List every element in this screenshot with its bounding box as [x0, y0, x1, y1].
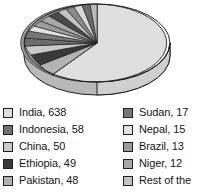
legend-swatch-icon-pakistan [3, 176, 13, 186]
legend-swatch-icon-indonesia [3, 125, 13, 135]
legend-swatch-icon-brazil [123, 142, 133, 152]
legend-label-nepal: Nepal, 15 [139, 124, 185, 135]
legend-item-rest-of-the: Rest of the [123, 172, 191, 189]
legend-item-brazil: Brazil, 13 [123, 138, 191, 155]
legend-item-pakistan: Pakistan, 48 [3, 172, 84, 189]
pie-body [21, 4, 170, 95]
legend-swatch-icon-rest-of-the [123, 176, 133, 186]
legend-item-niger: Niger, 12 [123, 155, 191, 172]
legend-label-pakistan: Pakistan, 48 [19, 175, 78, 186]
legend-swatch-icon-niger [123, 159, 133, 169]
legend-column-right: Sudan, 17 Nepal, 15 Brazil, 13 Niger, 12… [123, 104, 191, 189]
legend-item-india: India, 638 [3, 104, 84, 121]
legend-item-china: China, 50 [3, 138, 84, 155]
legend-swatch-icon-sudan [123, 108, 133, 118]
legend-label-sudan: Sudan, 17 [139, 107, 188, 118]
chart-legend: India, 638 Indonesia, 58 China, 50 Ethio… [0, 104, 208, 194]
legend-swatch-icon-ethiopia [3, 159, 13, 169]
legend-swatch-icon-nepal [123, 125, 133, 135]
pie-chart-graphic [0, 0, 208, 104]
legend-item-sudan: Sudan, 17 [123, 104, 191, 121]
legend-label-india: India, 638 [19, 107, 66, 118]
legend-swatch-icon-india [3, 108, 13, 118]
legend-label-ethiopia: Ethiopia, 49 [19, 158, 76, 169]
legend-label-indonesia: Indonesia, 58 [19, 124, 84, 135]
legend-column-left: India, 638 Indonesia, 58 China, 50 Ethio… [3, 104, 84, 189]
legend-label-china: China, 50 [19, 141, 65, 152]
legend-item-nepal: Nepal, 15 [123, 121, 191, 138]
legend-swatch-icon-china [3, 142, 13, 152]
pie-svg [0, 0, 208, 104]
legend-label-niger: Niger, 12 [139, 158, 182, 169]
legend-label-brazil: Brazil, 13 [139, 141, 184, 152]
pie-chart-figure: India, 638 Indonesia, 58 China, 50 Ethio… [0, 0, 208, 194]
legend-label-rest-of-the: Rest of the [139, 175, 191, 186]
legend-item-ethiopia: Ethiopia, 49 [3, 155, 84, 172]
legend-item-indonesia: Indonesia, 58 [3, 121, 84, 138]
